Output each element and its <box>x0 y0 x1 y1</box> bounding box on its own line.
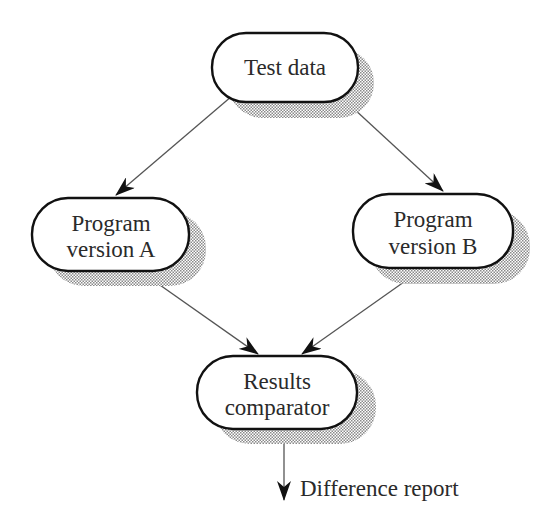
node-label-line-2: version B <box>389 234 478 259</box>
node-label-line-2: version A <box>67 237 156 262</box>
node-label: Test data <box>244 55 326 80</box>
flowchart-canvas: Test data Program version A Program vers… <box>0 0 555 520</box>
node-program-a: Program version A <box>32 198 206 286</box>
node-test-data: Test data <box>212 33 374 118</box>
node-program-b: Program version B <box>353 194 530 284</box>
node-label-line-1: Program <box>393 207 472 232</box>
node-label-line-1: Program <box>71 211 150 236</box>
edge-test-data-to-program-a <box>116 96 232 195</box>
node-comparator: Results comparator <box>197 356 376 444</box>
node-label-line-1: Results <box>243 369 311 394</box>
node-label-line-2: comparator <box>225 395 330 420</box>
output-label-difference-report: Difference report <box>300 476 459 501</box>
